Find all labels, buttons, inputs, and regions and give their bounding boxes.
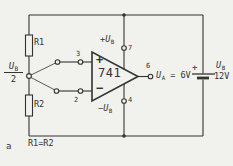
- opamp-minus-input-sign: −: [96, 82, 103, 94]
- pin7-number: 7: [128, 45, 132, 52]
- resistor-r2-symbol: [26, 95, 33, 116]
- positive-supply-symbol: U: [105, 34, 110, 44]
- pin2-terminal: [78, 89, 83, 94]
- output-voltage-symbol: U: [156, 70, 161, 80]
- resistor-r1-symbol: [26, 35, 33, 56]
- battery-symbol-u: U: [216, 60, 221, 70]
- negative-supply-subscript: B: [109, 108, 112, 114]
- opamp-part-number: 741: [98, 67, 121, 79]
- input-voltage-label: UB 2: [4, 61, 23, 84]
- pin7-terminal: [122, 46, 127, 51]
- pin3-number: 3: [76, 51, 80, 58]
- positive-supply-subscript: B: [111, 39, 114, 45]
- output-voltage-label: UA = 6V: [156, 71, 191, 80]
- battery-plus-sign: +: [192, 63, 197, 72]
- pin4-terminal: [122, 99, 127, 104]
- pin4-number: 4: [128, 97, 132, 104]
- switch-arms: [31, 63, 56, 90]
- pin6-number: 6: [146, 63, 150, 70]
- positive-supply-label: +UB: [100, 35, 114, 44]
- inv-contact-terminal: [54, 89, 59, 94]
- negative-supply-symbol: U: [103, 103, 108, 113]
- pin3-terminal: [78, 60, 83, 65]
- negative-supply-label: −UB: [98, 104, 112, 113]
- input-voltage-denominator: 2: [4, 73, 23, 84]
- opamp-plus-input-sign: +: [96, 54, 103, 66]
- input-voltage-subscript: B: [15, 65, 19, 72]
- divider-node-terminal: [27, 74, 32, 79]
- figure-label: a: [6, 142, 11, 151]
- opamp-circuit-diagram: R1 R2 UB 2 3 2 7 4 6 +UB −UB + 741 − UA …: [0, 0, 233, 166]
- bottom-junction-dot: [122, 134, 126, 138]
- pin2-number: 2: [74, 97, 78, 104]
- output-voltage-value: = 6V: [170, 70, 190, 80]
- r1-label: R1: [34, 38, 44, 47]
- input-voltage-symbol: U: [9, 61, 14, 71]
- pin6-terminal: [148, 74, 153, 79]
- resistor-equation: R1=R2: [28, 139, 54, 148]
- output-voltage-subscript: A: [162, 75, 165, 81]
- noninv-contact-terminal: [55, 60, 60, 65]
- r2-label: R2: [34, 100, 44, 109]
- battery-voltage-value: 12V: [214, 72, 229, 81]
- battery-voltage-symbol: UB: [216, 61, 225, 70]
